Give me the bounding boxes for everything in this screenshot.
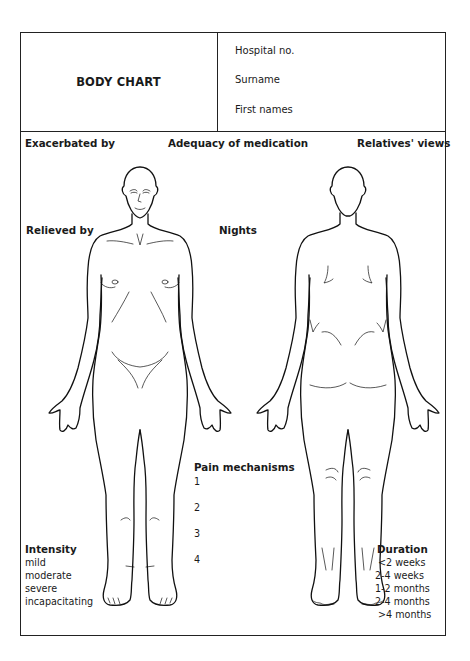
duration-option-1-2-months[interactable]: 1-2 months — [375, 582, 430, 596]
duration-option-lt-2-weeks[interactable]: <2 weeks — [378, 556, 425, 570]
intensity-option-severe[interactable]: severe — [25, 582, 57, 596]
body-front-outline[interactable] — [49, 167, 231, 605]
intensity-title: Intensity — [25, 543, 77, 555]
body-back-outline[interactable] — [257, 167, 439, 605]
pain-mechanism-4[interactable]: 4 — [194, 553, 200, 567]
pain-mechanism-1[interactable]: 1 — [194, 475, 200, 489]
duration-option-2-4-weeks[interactable]: 2-4 weeks — [375, 569, 424, 583]
duration-title: Duration — [377, 543, 428, 555]
pain-mechanism-3[interactable]: 3 — [194, 527, 200, 541]
intensity-option-moderate[interactable]: moderate — [25, 569, 72, 583]
pain-mechanism-2[interactable]: 2 — [194, 501, 200, 515]
pain-mechanisms-title: Pain mechanisms — [194, 461, 295, 473]
intensity-option-incapacitating[interactable]: incapacitating — [25, 595, 93, 609]
duration-option-gt-4-months[interactable]: >4 months — [378, 608, 431, 622]
intensity-option-mild[interactable]: mild — [25, 556, 46, 570]
duration-option-2-4-months[interactable]: 2-4 months — [375, 595, 430, 609]
